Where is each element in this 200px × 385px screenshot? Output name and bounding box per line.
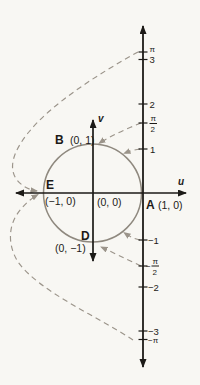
v-axis-label: v xyxy=(98,113,105,124)
tick-label-minus-2: −2 xyxy=(148,282,159,293)
tick-label-minus-1: −1 xyxy=(148,235,159,246)
tick-label-pi: π xyxy=(150,45,156,54)
minus-pi-over-2-numerator: π xyxy=(153,257,159,266)
tick-label-minus-3: −3 xyxy=(148,326,159,337)
point-A-coords: (1, 0) xyxy=(158,199,183,211)
tick-label-1: 1 xyxy=(150,144,155,155)
pi-over-2-denominator: 2 xyxy=(151,125,156,134)
minus-pi-over-2-denominator: 2 xyxy=(153,268,158,277)
tick-label-2: 2 xyxy=(150,99,155,110)
wrapping-function-figure: π 3 2 π 2 1 −1 − π 2 −2 −3 −π u v B (0, … xyxy=(0,0,200,385)
u-axis-label: u xyxy=(178,176,184,187)
wrap-curve-one-to-circle xyxy=(124,149,140,154)
point-E-letter: E xyxy=(46,178,54,192)
wrap-curve-pi-to-E xyxy=(13,52,138,191)
tick-label-minus-pi-over-2: − π 2 xyxy=(146,257,159,277)
origin-coords: (0, 0) xyxy=(97,196,122,208)
wrap-curve-minus-pi-to-E xyxy=(10,195,133,341)
point-E-coords: (−1, 0) xyxy=(45,195,76,207)
tick-label-pi-over-2: π 2 xyxy=(150,114,158,134)
wrap-curve-minus-one-to-circle xyxy=(124,233,140,241)
minus-pi-over-2-sign: − xyxy=(146,262,151,271)
wrap-curve-pi-over-2-to-B xyxy=(99,123,141,144)
pi-over-2-numerator: π xyxy=(151,114,157,123)
point-B-coords: (0, 1) xyxy=(70,134,95,146)
point-B-letter: B xyxy=(55,133,64,147)
wrap-curve-minus-pi-over-2-to-D xyxy=(101,247,141,266)
point-A-letter: A xyxy=(146,198,155,212)
tick-label-minus-pi: −π xyxy=(148,336,159,345)
diagram-canvas: π 3 2 π 2 1 −1 − π 2 −2 −3 −π u v B (0, … xyxy=(0,0,200,385)
point-D-coords: (0, −1) xyxy=(55,242,86,254)
tick-label-3: 3 xyxy=(150,54,155,65)
